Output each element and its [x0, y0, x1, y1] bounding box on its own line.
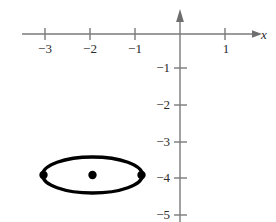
- x-axis-label: x: [260, 27, 267, 42]
- x-tick-label-neg3: −3: [38, 41, 52, 56]
- x-tick-label-pos1: 1: [223, 41, 230, 56]
- y-tick-label-neg5: −5: [156, 207, 170, 222]
- figure-canvas: −3 −2 −1 1 x −1 −2 −3 −4 −5: [0, 0, 276, 222]
- y-tick-label-neg4: −4: [156, 170, 170, 185]
- ellipse-right-vertex-point: [137, 171, 145, 179]
- coordinate-plane-plot: −3 −2 −1 1 x −1 −2 −3 −4 −5: [0, 0, 276, 222]
- ellipse-left-vertex-point: [39, 171, 47, 179]
- ellipse-center-point: [88, 171, 96, 179]
- y-tick-label-neg2: −2: [156, 97, 170, 112]
- x-tick-label-neg2: −2: [83, 41, 97, 56]
- y-tick-label-neg1: −1: [156, 60, 170, 75]
- x-tick-label-neg1: −1: [128, 41, 142, 56]
- y-tick-label-neg3: −3: [156, 134, 170, 149]
